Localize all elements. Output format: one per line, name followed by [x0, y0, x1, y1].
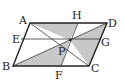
- shaded-triangle-AHP: [30, 23, 78, 40]
- label-D: D: [108, 17, 117, 30]
- label-F: F: [55, 69, 63, 81]
- label-E: E: [12, 33, 20, 46]
- label-C: C: [91, 62, 99, 75]
- parallelogram-diagram: A H D E G P B F C: [0, 0, 124, 81]
- label-P: P: [58, 45, 66, 58]
- label-A: A: [18, 14, 28, 27]
- label-H: H: [72, 9, 82, 22]
- label-B: B: [2, 60, 10, 73]
- point-P-marker: [69, 39, 71, 41]
- label-G: G: [101, 36, 110, 49]
